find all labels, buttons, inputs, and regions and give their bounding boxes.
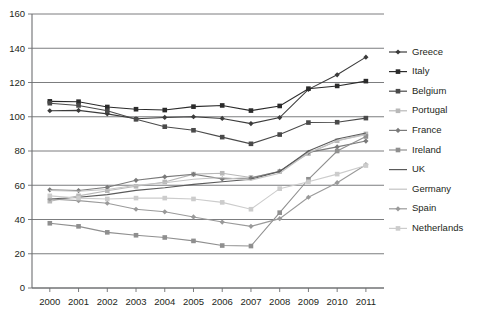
data-point-square: [191, 239, 196, 244]
data-point-square: [134, 117, 139, 122]
legend-item-germany[interactable]: Germany: [389, 183, 451, 194]
data-point-square: [249, 207, 254, 212]
data-point-square: [134, 107, 139, 112]
data-point-square: [76, 224, 81, 229]
legend-item-uk[interactable]: UK: [389, 163, 426, 174]
data-point-diamond: [47, 108, 52, 113]
data-point-diamond: [191, 114, 196, 119]
data-point-diamond: [162, 174, 167, 179]
series-uk: [50, 133, 366, 199]
legend-label: Portugal: [412, 104, 447, 115]
data-point-square: [364, 163, 369, 168]
data-point-square: [162, 196, 167, 201]
data-point-diamond: [220, 219, 225, 224]
y-axis-tick-label: 20: [14, 248, 25, 259]
data-point-square: [335, 120, 340, 125]
data-point-diamond: [335, 180, 340, 185]
data-point-diamond: [248, 224, 253, 229]
legend-item-ireland[interactable]: Ireland: [389, 144, 441, 155]
legend-label: Germany: [412, 183, 451, 194]
data-point-square: [48, 194, 53, 199]
chart-legend: GreeceItalyBelgiumPortugalFranceIrelandU…: [389, 46, 463, 233]
data-point-square: [134, 233, 139, 238]
data-point-square: [162, 124, 167, 129]
series-line: [50, 103, 366, 144]
data-point-square: [396, 148, 401, 153]
line-chart: 020406080100120140160 200020012002200320…: [0, 0, 481, 319]
x-axis-tick-label: 2004: [154, 296, 175, 307]
data-point-square: [48, 221, 53, 226]
data-point-square: [105, 108, 110, 113]
x-axis-tick-label: 2002: [97, 296, 118, 307]
data-point-square: [162, 108, 167, 113]
y-axis-tick-label: 40: [14, 214, 25, 225]
x-axis-tick-label: 2010: [327, 296, 348, 307]
data-point-diamond: [162, 115, 167, 120]
series-belgium: [48, 101, 369, 146]
data-point-square: [105, 230, 110, 235]
legend-item-belgium[interactable]: Belgium: [389, 85, 446, 96]
data-point-square: [396, 89, 401, 94]
data-point-diamond: [395, 128, 400, 133]
data-point-diamond: [363, 138, 368, 143]
legend-label: Spain: [412, 202, 436, 213]
data-point-square: [48, 101, 53, 106]
legend-item-greece[interactable]: Greece: [389, 46, 443, 57]
x-axis-tick-label: 2005: [183, 296, 204, 307]
x-axis-ticks-group: [50, 288, 366, 292]
legend-label: Netherlands: [412, 222, 463, 233]
y-axis-labels-group: 020406080100120140160: [9, 8, 25, 293]
data-point-diamond: [248, 121, 253, 126]
data-point-square: [249, 108, 254, 113]
series-line: [50, 133, 366, 199]
data-point-square: [220, 200, 225, 205]
legend-label: Greece: [412, 46, 443, 57]
legend-label: Belgium: [412, 85, 446, 96]
data-point-square: [396, 226, 401, 231]
legend-label: UK: [412, 163, 426, 174]
data-point-diamond: [105, 201, 110, 206]
legend-label: Ireland: [412, 144, 441, 155]
y-axis-tick-label: 0: [20, 282, 25, 293]
x-axis-tick-label: 2008: [269, 296, 290, 307]
data-point-square: [220, 103, 225, 108]
data-point-diamond: [162, 209, 167, 214]
data-point-square: [306, 86, 311, 91]
data-point-square: [277, 104, 282, 109]
legend-item-netherlands[interactable]: Netherlands: [389, 222, 463, 233]
y-axis-tick-label: 60: [14, 180, 25, 191]
legend-item-spain[interactable]: Spain: [389, 202, 436, 213]
data-point-square: [191, 104, 196, 109]
data-point-square: [191, 128, 196, 133]
legend-item-portugal[interactable]: Portugal: [389, 104, 447, 115]
data-point-square: [220, 171, 225, 176]
data-point-diamond: [363, 55, 368, 60]
legend-label: France: [412, 124, 442, 135]
legend-item-france[interactable]: France: [389, 124, 442, 135]
series-line: [50, 81, 366, 110]
data-point-diamond: [133, 178, 138, 183]
data-point-diamond: [133, 207, 138, 212]
data-point-square: [162, 235, 167, 240]
data-point-square: [191, 197, 196, 202]
data-point-square: [105, 197, 110, 202]
data-point-diamond: [76, 188, 81, 193]
y-axis-tick-label: 120: [9, 77, 25, 88]
data-point-diamond: [191, 214, 196, 219]
data-point-square: [396, 109, 401, 114]
data-point-diamond: [395, 206, 400, 211]
data-point-square: [396, 69, 401, 74]
x-axis-tick-label: 2006: [212, 296, 233, 307]
data-point-square: [134, 196, 139, 201]
series-netherlands: [48, 163, 369, 211]
gridlines-group: [32, 14, 384, 288]
x-axis-tick-label: 2011: [356, 296, 376, 307]
series-line: [50, 134, 366, 201]
data-point-diamond: [395, 49, 400, 54]
data-point-diamond: [47, 187, 52, 192]
data-point-square: [306, 180, 311, 185]
legend-label: Italy: [412, 65, 430, 76]
legend-item-italy[interactable]: Italy: [389, 65, 430, 76]
data-point-square: [76, 196, 81, 201]
y-axis-tick-label: 160: [9, 8, 25, 19]
